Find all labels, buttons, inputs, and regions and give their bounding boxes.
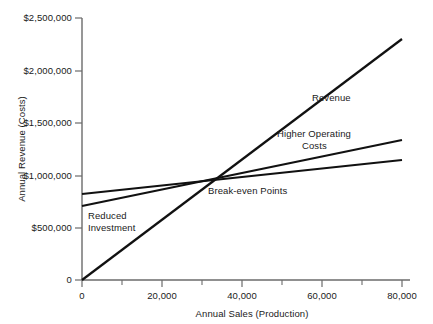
annotation-break-even-points: Break-even Points	[208, 185, 287, 197]
y-axis-ticks	[75, 18, 82, 280]
y-tick-label-2500000: $2,500,000	[2, 12, 72, 24]
x-tick-label-60000: 60,000	[297, 290, 347, 302]
y-tick-label-0: 0	[2, 274, 72, 286]
break-even-chart: $2,500,000 $2,000,000 $1,500,000 $1,000,…	[0, 0, 433, 324]
x-tick-label-20000: 20,000	[137, 290, 187, 302]
series-label-reduced-investment-line1: Reduced	[88, 210, 127, 222]
y-axis-title: Annual Revenue (Costs)	[16, 96, 27, 202]
series-label-higher-operating-costs-line2: Costs	[302, 140, 327, 152]
x-axis-title: Annual Sales (Production)	[182, 308, 322, 320]
x-tick-label-40000: 40,000	[217, 290, 267, 302]
x-tick-label-0: 0	[62, 290, 102, 302]
x-axis-major-ticks	[82, 280, 402, 287]
series-label-reduced-investment-line2: Investment	[88, 222, 135, 234]
series-label-higher-operating-costs-line1: Higher Operating	[277, 128, 351, 140]
x-tick-label-80000: 80,000	[377, 290, 427, 302]
series-label-revenue: Revenue	[312, 92, 351, 104]
y-axis-title-wrap: Annual Revenue (Costs)	[11, 69, 29, 229]
series-line-revenue	[82, 39, 402, 280]
